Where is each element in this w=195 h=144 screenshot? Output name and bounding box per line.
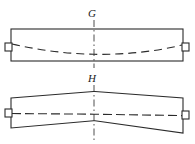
- beam-outline-g: [11, 29, 183, 61]
- left-support-tab-h: [5, 109, 12, 117]
- beam-outline-h: [11, 92, 183, 134]
- left-support-tab-g: [5, 43, 12, 51]
- label-g: G: [88, 7, 96, 19]
- label-h: H: [87, 72, 97, 84]
- engineering-figure: G H: [0, 0, 195, 144]
- panel-h: H: [5, 72, 189, 140]
- panel-g: G: [5, 7, 189, 68]
- figure-canvas: G H: [0, 0, 195, 144]
- right-support-tab-g: [182, 43, 189, 51]
- right-support-tab-h: [182, 111, 189, 119]
- deflection-curve-g: [12, 44, 182, 54]
- neutral-axis-h: [12, 114, 182, 116]
